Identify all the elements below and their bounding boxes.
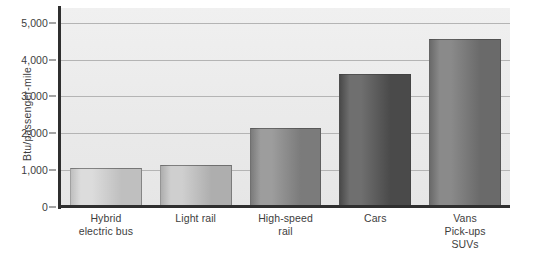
bar-series (61, 8, 510, 207)
bar-vans-pick-ups-suvs (429, 39, 501, 207)
y-tick-label-3000: 3,000 (21, 90, 48, 102)
x-axis-category-labels: Hybridelectric busLight railHigh-speedra… (61, 212, 510, 258)
bar-hybrid-electric-bus (70, 168, 142, 207)
x-label-line: electric bus (61, 225, 151, 238)
y-tick-label-0: 0 (42, 201, 48, 213)
x-axis-label-hybrid-electric-bus: Hybridelectric bus (61, 212, 151, 238)
y-tick-label-5000: 5,000 (21, 17, 48, 29)
y-tick-mark-4000 (49, 59, 56, 60)
x-label-line: SUVs (420, 238, 510, 251)
bar-chart-figure: Btu/passenger-mile 01,0002,0003,0004,000… (0, 0, 536, 259)
y-axis-tick-labels: 01,0002,0003,0004,0005,000 (0, 0, 56, 259)
x-label-line: rail (241, 225, 331, 238)
bar-cars (339, 74, 411, 207)
y-tick-mark-3000 (49, 96, 56, 97)
x-label-line: Cars (330, 212, 420, 225)
y-tick-mark-0 (49, 207, 56, 208)
x-label-line: Light rail (151, 212, 241, 225)
x-label-line: Vans (420, 212, 510, 225)
x-axis-label-high-speed-rail: High-speedrail (241, 212, 331, 238)
y-tick-mark-1000 (49, 170, 56, 171)
y-tick-label-4000: 4,000 (21, 54, 48, 66)
bar-light-rail (160, 165, 232, 207)
x-label-line: Hybrid (61, 212, 151, 225)
y-tick-label-1000: 1,000 (21, 164, 48, 176)
y-tick-mark-5000 (49, 22, 56, 23)
x-axis-line (58, 205, 510, 208)
plot-area (61, 8, 510, 207)
x-axis-label-light-rail: Light rail (151, 212, 241, 225)
bar-high-speed-rail (250, 128, 322, 207)
y-tick-label-2000: 2,000 (21, 127, 48, 139)
y-tick-mark-2000 (49, 133, 56, 134)
x-axis-label-vans-pick-ups-suvs: VansPick-upsSUVs (420, 212, 510, 251)
x-label-line: Pick-ups (420, 225, 510, 238)
x-label-line: High-speed (241, 212, 331, 225)
x-axis-label-cars: Cars (330, 212, 420, 225)
